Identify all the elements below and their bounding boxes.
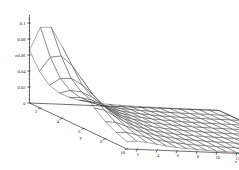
svg-text:0.08: 0.08 <box>17 37 26 42</box>
svg-text:0.04: 0.04 <box>17 69 26 74</box>
svg-text:0.06: 0.06 <box>17 53 26 58</box>
svg-text:10: 10 <box>215 155 220 160</box>
svg-text:10: 10 <box>121 150 126 155</box>
svg-text:0.02: 0.02 <box>17 85 26 90</box>
surface-plot-figure: 0.10.080.060.040.020z246810y201816141210… <box>0 0 239 170</box>
svg-text:0.1: 0.1 <box>20 21 26 26</box>
surface-plot-canvas: 0.10.080.060.040.020z246810y201816141210… <box>0 0 239 170</box>
